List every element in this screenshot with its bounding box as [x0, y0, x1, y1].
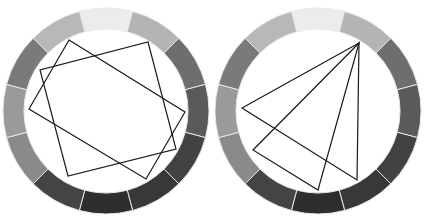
wheel-segment-3 [397, 84, 421, 137]
harmony-triangle-a [242, 43, 359, 180]
color-wheel-left [3, 8, 209, 214]
wheel-segment-6 [79, 190, 132, 214]
wheel-segment-0 [79, 8, 132, 32]
wheel-segment-3 [185, 84, 209, 137]
harmony-square-a [29, 40, 185, 179]
wheel-segment-9 [3, 84, 27, 137]
color-wheel-right [215, 8, 421, 214]
diagram-stage [0, 0, 425, 223]
harmony-triangle-b [253, 43, 359, 190]
wheel-segment-6 [291, 190, 344, 214]
color-wheels-svg [0, 0, 425, 223]
wheel-segment-0 [291, 8, 344, 32]
wheel-segment-9 [215, 84, 239, 137]
